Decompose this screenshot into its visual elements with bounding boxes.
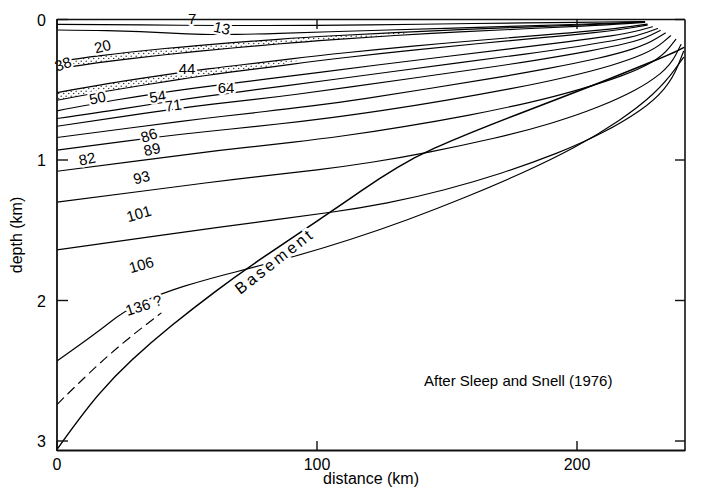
contour-label-50: 5050 (88, 88, 108, 108)
source-caption: After Sleep and Snell (1976) (424, 372, 612, 389)
contour-label-82: 8282 (77, 148, 97, 168)
contour-label-text: 44 (179, 60, 196, 77)
contour-label-64: 6464 (218, 79, 235, 96)
figure-container: 7713132020383844445050545464647171868689… (0, 0, 707, 495)
chart-background (0, 0, 707, 495)
contour-label-7: 77 (188, 10, 196, 27)
contour-label-text: 50 (88, 88, 108, 108)
contour-label-13: 1313 (212, 18, 232, 38)
contour-label-text: 7 (188, 10, 196, 27)
y-tick-label-2: 2 (37, 293, 46, 310)
contour-label-text: 71 (164, 95, 183, 114)
contour-label-44: 4444 (179, 60, 196, 77)
y-tick-label-3: 3 (37, 433, 46, 450)
contour-label-text: 82 (77, 148, 97, 168)
x-axis-label: distance (km) (323, 470, 419, 487)
y-tick-label-1: 1 (37, 152, 46, 169)
x-tick-label-200: 200 (564, 456, 591, 473)
x-tick-label-0: 0 (53, 456, 62, 473)
y-axis-label: depth (km) (8, 197, 25, 273)
contour-label-text: 13 (212, 18, 232, 38)
contour-label-71: 7171 (164, 95, 183, 114)
y-tick-label-0: 0 (37, 12, 46, 29)
cross-section-chart: 7713132020383844445050545464647171868689… (0, 0, 707, 495)
contour-label-text: 64 (218, 79, 235, 96)
